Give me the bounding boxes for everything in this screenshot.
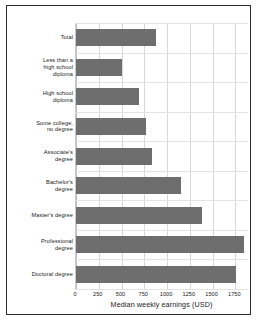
x-tick-label-0: 0 bbox=[73, 291, 76, 297]
bar-7 bbox=[76, 236, 244, 253]
gridline-y-9 bbox=[76, 289, 248, 290]
bar-6 bbox=[76, 207, 202, 224]
gridline-y-2 bbox=[76, 82, 248, 83]
x-tick-label-1000: 1000 bbox=[160, 291, 172, 297]
category-label-6-line-0: Master's degree bbox=[15, 212, 73, 219]
category-label-5: Bachelor'sdegree bbox=[15, 179, 73, 192]
category-label-0: Total bbox=[15, 34, 73, 41]
category-label-4-line-0: Associate's bbox=[15, 149, 73, 156]
category-axis-labels: TotalLess than ahigh schooldiplomaHigh s… bbox=[15, 23, 73, 289]
category-label-7-line-1: degree bbox=[15, 245, 73, 252]
category-label-2-line-1: diploma bbox=[15, 97, 73, 104]
category-label-5-line-1: degree bbox=[15, 186, 73, 193]
gridline-y-6 bbox=[76, 200, 248, 201]
x-tick-label-500: 500 bbox=[116, 291, 125, 297]
x-tick-label-250: 250 bbox=[93, 291, 102, 297]
bar-0 bbox=[76, 29, 156, 46]
x-axis-title: Median weekly earnings (USD) bbox=[75, 300, 248, 309]
bar-1 bbox=[76, 59, 122, 76]
gridline-y-1 bbox=[76, 53, 248, 54]
category-label-8-line-0: Doctoral degree bbox=[15, 271, 73, 278]
category-label-3-line-1: no degree bbox=[15, 126, 73, 133]
gridline-y-7 bbox=[76, 230, 248, 231]
gridline-y-5 bbox=[76, 171, 248, 172]
bar-4 bbox=[76, 148, 152, 165]
x-tick-label-1250: 1250 bbox=[183, 291, 195, 297]
category-label-7-line-0: Professional bbox=[15, 238, 73, 245]
bar-8 bbox=[76, 266, 236, 283]
category-label-8: Doctoral degree bbox=[15, 271, 73, 278]
bar-5 bbox=[76, 177, 181, 194]
category-label-2-line-0: High school bbox=[15, 90, 73, 97]
category-label-7: Professionaldegree bbox=[15, 238, 73, 251]
plot-area bbox=[75, 23, 248, 289]
chart-figure: TotalLess than ahigh schooldiplomaHigh s… bbox=[0, 0, 258, 327]
category-label-4: Associate'sdegree bbox=[15, 149, 73, 162]
gridline-y-3 bbox=[76, 112, 248, 113]
bar-2 bbox=[76, 88, 139, 105]
gridline-y-4 bbox=[76, 141, 248, 142]
figure-frame: TotalLess than ahigh schooldiplomaHigh s… bbox=[6, 5, 251, 315]
category-label-3-line-0: Some college, bbox=[15, 120, 73, 127]
bar-3 bbox=[76, 118, 146, 135]
category-label-1-line-1: high school bbox=[15, 64, 73, 71]
category-label-4-line-1: degree bbox=[15, 156, 73, 163]
x-tick-label-1500: 1500 bbox=[205, 291, 217, 297]
category-label-1-line-0: Less than a bbox=[15, 57, 73, 64]
category-label-1-line-2: diploma bbox=[15, 71, 73, 78]
category-label-5-line-0: Bachelor's bbox=[15, 179, 73, 186]
category-label-6: Master's degree bbox=[15, 212, 73, 219]
gridline-y-0 bbox=[76, 23, 248, 24]
x-tick-label-1750: 1750 bbox=[228, 291, 240, 297]
x-tick-label-750: 750 bbox=[139, 291, 148, 297]
category-label-1: Less than ahigh schooldiploma bbox=[15, 57, 73, 77]
category-label-3: Some college,no degree bbox=[15, 120, 73, 133]
gridline-y-8 bbox=[76, 259, 248, 260]
category-label-2: High schooldiploma bbox=[15, 90, 73, 103]
category-label-0-line-0: Total bbox=[15, 34, 73, 41]
